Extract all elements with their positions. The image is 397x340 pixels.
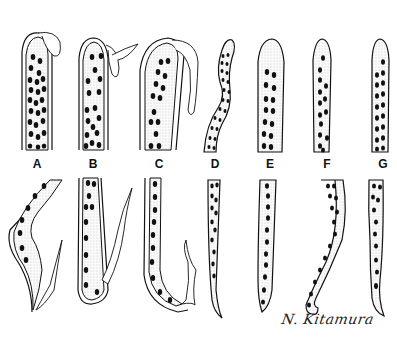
panel-label-d: D <box>205 157 225 171</box>
specimen-e-anterior <box>258 39 284 152</box>
specimen-f-anterior <box>313 39 331 153</box>
specimen-c-anterior <box>140 38 198 150</box>
panel-label-a: A <box>27 157 47 171</box>
specimen-b-anterior <box>79 38 138 150</box>
specimen-d-anterior <box>204 40 235 152</box>
specimen-e-posterior <box>258 180 276 312</box>
specimen-c-posterior <box>144 178 196 312</box>
specimen-b-posterior <box>78 178 132 304</box>
panel-label-e: E <box>260 157 280 171</box>
artist-signature: N. Kitamura <box>281 311 376 327</box>
specimen-f-posterior <box>306 180 345 314</box>
panel-label-b: B <box>83 157 103 171</box>
panel-label-g: G <box>373 157 393 171</box>
specimen-d-posterior <box>208 180 222 318</box>
specimen-a-posterior <box>9 180 62 312</box>
specimen-a-anterior <box>22 32 60 150</box>
panel-label-f: F <box>317 157 337 171</box>
panel-label-c: C <box>149 157 169 171</box>
specimen-g-anterior <box>372 39 389 152</box>
figure-canvas: A B C D E F G N. Kitamura <box>0 0 397 340</box>
specimen-drawings <box>0 0 397 340</box>
specimen-g-posterior <box>369 180 384 316</box>
